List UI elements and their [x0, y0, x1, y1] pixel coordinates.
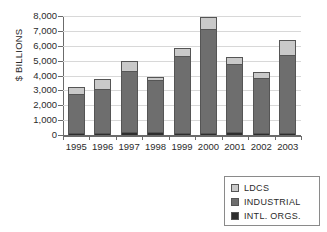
bar-segment-ldcs-1997[interactable]: [121, 61, 138, 71]
y-axis-tick-label: 4,000: [5, 70, 57, 81]
y-axis-tick: 8,000: [0, 10, 57, 22]
x-axis-tick-mark: [63, 136, 64, 140]
bar-1999[interactable]: [174, 48, 191, 135]
bar-segment-intl-orgs-1997[interactable]: [121, 132, 138, 135]
bar-segment-intl-orgs-2000[interactable]: [200, 133, 217, 135]
bar-segment-intl-orgs-1998[interactable]: [147, 132, 164, 135]
legend-swatch-intl-orgs: [231, 212, 239, 220]
y-axis-tick: 1,000: [0, 114, 57, 126]
bar-2002[interactable]: [253, 72, 270, 135]
x-axis-label-2003: 2003: [273, 141, 303, 152]
y-axis-tick-label: 0: [5, 129, 57, 140]
y-axis-tick-label: 8,000: [5, 10, 57, 21]
y-axis-tick-label: 6,000: [5, 40, 57, 51]
y-axis-tick-label: 1,000: [5, 114, 57, 125]
x-axis-tick-mark: [169, 136, 170, 140]
grid-line: [63, 135, 301, 136]
bar-1997[interactable]: [121, 61, 138, 135]
y-axis-tick: 2,000: [0, 99, 57, 111]
y-axis-tick-label: 5,000: [5, 55, 57, 66]
bar-segment-industrial-2000[interactable]: [200, 29, 217, 133]
legend-label-intl-orgs: INTL. ORGS.: [244, 211, 301, 221]
legend-item-ldcs: LDCS: [231, 181, 319, 195]
x-axis-tick-mark: [301, 136, 302, 140]
x-axis-line: [63, 136, 302, 137]
x-axis-tick-mark: [248, 136, 249, 140]
bar-segment-ldcs-1995[interactable]: [68, 87, 85, 95]
bar-1996[interactable]: [94, 79, 111, 135]
bar-2001[interactable]: [226, 57, 243, 135]
bar-segment-industrial-2001[interactable]: [226, 64, 243, 132]
chart-legend: LDCS INDUSTRIAL INTL. ORGS.: [224, 176, 320, 226]
bar-segment-industrial-1996[interactable]: [94, 89, 111, 133]
bar-segment-intl-orgs-2003[interactable]: [279, 133, 296, 135]
bar-segment-ldcs-2003[interactable]: [279, 40, 296, 55]
legend-label-industrial: INDUSTRIAL: [244, 197, 301, 207]
y-axis-tick-label: 2,000: [5, 99, 57, 110]
bar-segment-intl-orgs-2002[interactable]: [253, 133, 270, 135]
y-axis-tick: 4,000: [0, 70, 57, 82]
bar-segment-ldcs-2000[interactable]: [200, 17, 217, 29]
bar-segment-intl-orgs-1995[interactable]: [68, 133, 85, 135]
bar-segment-ldcs-1999[interactable]: [174, 48, 191, 56]
bar-segment-industrial-1999[interactable]: [174, 56, 191, 132]
bar-segment-industrial-1995[interactable]: [68, 94, 85, 133]
bar-2003[interactable]: [279, 40, 296, 135]
x-axis-tick-mark: [275, 136, 276, 140]
bar-segment-industrial-2003[interactable]: [279, 55, 296, 133]
x-axis-tick-mark: [116, 136, 117, 140]
x-axis-tick-mark: [222, 136, 223, 140]
bar-segment-intl-orgs-2001[interactable]: [226, 132, 243, 135]
x-axis-tick-mark: [89, 136, 90, 140]
bar-segment-ldcs-2001[interactable]: [226, 57, 243, 64]
legend-label-ldcs: LDCS: [244, 183, 269, 193]
bar-segment-intl-orgs-1996[interactable]: [94, 133, 111, 135]
y-axis-tick: 0: [0, 129, 57, 141]
bar-segment-intl-orgs-1999[interactable]: [174, 133, 191, 135]
legend-swatch-ldcs: [231, 184, 239, 192]
bar-1995[interactable]: [68, 87, 85, 135]
bar-2000[interactable]: [200, 17, 217, 135]
y-axis-tick: 7,000: [0, 25, 57, 37]
bar-segment-industrial-1997[interactable]: [121, 71, 138, 133]
y-axis-tick-label: 3,000: [5, 84, 57, 95]
x-axis-tick-mark: [195, 136, 196, 140]
bar-segment-ldcs-1996[interactable]: [94, 79, 111, 89]
bar-segment-industrial-1998[interactable]: [147, 80, 164, 132]
legend-item-industrial: INDUSTRIAL: [231, 195, 319, 209]
y-axis-tick: 3,000: [0, 84, 57, 96]
legend-swatch-industrial: [231, 198, 239, 206]
stacked-bar-chart: $ BILLIONS 8,0007,0006,0005,0004,0003,00…: [0, 0, 327, 232]
bar-segment-industrial-2002[interactable]: [253, 78, 270, 132]
plot-area: [63, 16, 301, 135]
y-axis-tick-label: 7,000: [5, 25, 57, 36]
y-axis-tick: 5,000: [0, 55, 57, 67]
x-axis-tick-mark: [142, 136, 143, 140]
bar-1998[interactable]: [147, 77, 164, 135]
bar-segment-ldcs-2002[interactable]: [253, 72, 270, 79]
y-axis-tick: 6,000: [0, 40, 57, 52]
legend-item-intl-orgs: INTL. ORGS.: [231, 209, 319, 223]
